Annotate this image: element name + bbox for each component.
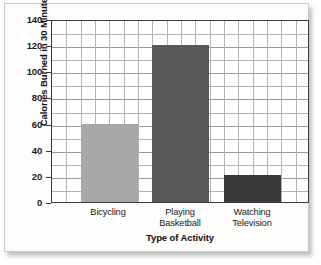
y-tick-label-120: 120 <box>27 41 42 51</box>
gridline-x-16 <box>281 21 282 202</box>
plot-area <box>51 20 309 203</box>
figure-card: Calories Burned in 30 Minutes 0204060801… <box>4 3 309 252</box>
y-tick-label-60: 60 <box>32 120 42 130</box>
y-tick-mark-0 <box>46 203 51 204</box>
y-tick-label-80: 80 <box>32 93 42 103</box>
y-tick-label-40: 40 <box>32 146 42 156</box>
gridline-x-6 <box>138 21 139 202</box>
gridline-y-130 <box>52 34 308 35</box>
bar-bicycling <box>81 124 138 202</box>
y-tick-label-100: 100 <box>27 67 42 77</box>
x-axis-title: Type of Activity <box>51 232 309 243</box>
figure-inner: Calories Burned in 30 Minutes 0204060801… <box>7 6 306 249</box>
category-label-line: Watching <box>207 207 297 218</box>
gridline-x-17 <box>296 21 297 202</box>
x-category-watching-television: WatchingTelevision <box>207 207 297 229</box>
y-tick-label-0: 0 <box>37 198 42 208</box>
bar-watching-television <box>224 175 281 202</box>
bar-playing-basketball <box>152 45 209 202</box>
gridline-x-11 <box>210 21 211 202</box>
category-label-line: Television <box>207 218 297 229</box>
gridline-x-1 <box>66 21 67 202</box>
y-tick-label-140: 140 <box>27 15 42 25</box>
y-tick-label-20: 20 <box>32 172 42 182</box>
